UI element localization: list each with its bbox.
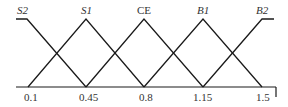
label-b2: B2 bbox=[256, 4, 269, 16]
tick-4: 1.5 bbox=[256, 91, 270, 103]
tick-3: 1.15 bbox=[193, 91, 213, 103]
membership-diagram: S2 S1 CE B1 B2 0.1 0.45 0.8 1.15 1.5 bbox=[0, 0, 288, 107]
tick-1: 0.45 bbox=[79, 91, 99, 103]
label-ce: CE bbox=[137, 4, 151, 16]
membership-ce bbox=[86, 19, 203, 87]
membership-s1 bbox=[28, 19, 144, 87]
membership-b2 bbox=[203, 19, 274, 87]
tick-2: 0.8 bbox=[139, 91, 153, 103]
membership-b1 bbox=[144, 19, 262, 87]
label-s2: S2 bbox=[17, 4, 29, 16]
tick-0: 0.1 bbox=[24, 91, 38, 103]
membership-s2 bbox=[16, 19, 86, 87]
label-b1: B1 bbox=[197, 4, 209, 16]
label-s1: S1 bbox=[81, 4, 92, 16]
